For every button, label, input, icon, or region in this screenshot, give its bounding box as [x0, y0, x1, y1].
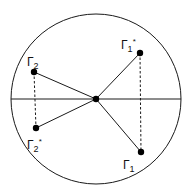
label-gamma2-star: Γ2*	[27, 137, 42, 154]
dashed-line-gamma2-gamma2-star	[34, 72, 36, 128]
solid-connector-lines	[34, 53, 141, 152]
point-gamma1-star	[137, 50, 143, 56]
point-gamma2-star	[33, 125, 39, 131]
solid-line-gamma1	[96, 99, 141, 152]
diagram-canvas: Γ2Γ2*Γ1*Γ1	[0, 0, 190, 194]
root-diagram: Γ2Γ2*Γ1*Γ1	[0, 0, 190, 194]
point-labels: Γ2Γ2*Γ1*Γ1	[27, 37, 136, 174]
solid-line-gamma2-star	[36, 99, 96, 128]
center-point	[93, 96, 99, 102]
solid-line-gamma2	[34, 72, 96, 99]
label-gamma1-star: Γ1*	[121, 37, 136, 54]
dashed-conjugate-lines	[34, 53, 141, 152]
label-gamma1: Γ1	[123, 158, 135, 174]
point-gamma1	[138, 149, 144, 155]
dashed-line-gamma1-star-gamma1	[140, 53, 141, 152]
label-gamma2: Γ2	[27, 55, 39, 71]
solid-line-gamma1-star	[96, 53, 140, 99]
root-points	[31, 50, 144, 155]
